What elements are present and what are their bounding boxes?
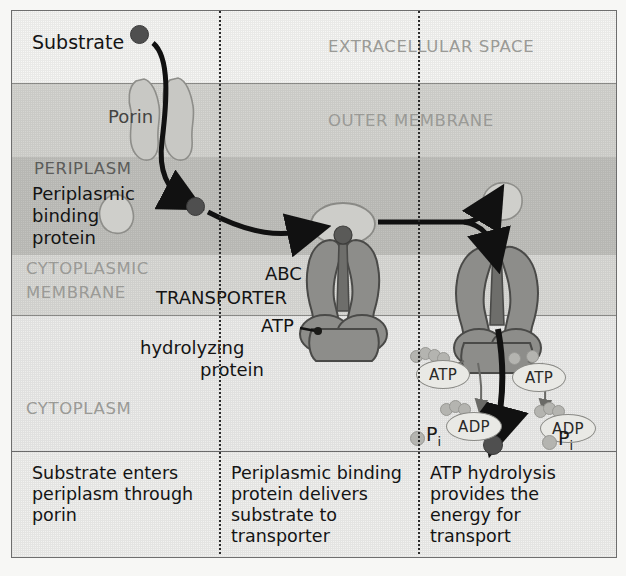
label-periplasmic-binding-protein-line3: protein: [32, 227, 96, 248]
label-cytoplasmic-membrane-line1: CYTOPLASMIC: [26, 259, 149, 278]
label-atp-hydrolyzing-line3: protein: [200, 359, 264, 380]
caption-2-line-2: protein delivers: [231, 484, 409, 505]
arrow-binding-protein-release: [464, 201, 494, 222]
caption-2-line-1: Periplasmic binding: [231, 463, 409, 484]
phosphate-label-right: Pi: [558, 427, 573, 453]
arrow-substrate-to-transporter: [208, 212, 312, 234]
caption-step-2: Periplasmic binding protein delivers sub…: [231, 463, 409, 547]
label-cytoplasm: CYTOPLASM: [26, 399, 131, 418]
caption-3-line-4: transport: [430, 526, 602, 547]
periplasmic-binding-protein-released: [483, 183, 522, 220]
caption-step-1: Substrate enters periplasm through porin: [32, 463, 210, 526]
phosphate-label-left: Pi: [426, 423, 441, 449]
label-atp-hydrolyzing-line2: hydrolyzing: [140, 337, 244, 358]
adp-label-left: ADP: [446, 412, 502, 441]
caption-3-line-1: ATP hydrolysis: [430, 463, 602, 484]
label-cytoplasmic-membrane-line2: MEMBRANE: [26, 283, 126, 302]
label-outer-membrane: OUTER MEMBRANE: [328, 111, 494, 130]
abc-transporter-middle: [300, 203, 387, 361]
substrate-in-transporter: [334, 226, 352, 244]
caption-2-line-3: substrate to: [231, 505, 409, 526]
label-extracellular-space: EXTRACELLULAR SPACE: [328, 37, 534, 56]
substrate-dot-periplasm: [186, 197, 205, 216]
label-periplasm: PERIPLASM: [34, 159, 132, 178]
caption-3-line-3: energy for: [430, 505, 602, 526]
caption-1-line-3: porin: [32, 505, 210, 526]
label-substrate: Substrate: [32, 31, 124, 53]
label-abc-line1: ABC: [265, 263, 302, 284]
label-periplasmic-binding-protein-line2: binding: [32, 205, 99, 226]
label-porin: Porin: [108, 106, 153, 127]
diagram-frame: RESISTANCE OF BACTERIA TO ANTIBIOTICS Th…: [11, 10, 617, 558]
label-atp-hydrolyzing-line1: ATP: [261, 315, 294, 336]
caption-step-3: ATP hydrolysis provides the energy for t…: [430, 463, 602, 547]
label-abc-line2: TRANSPORTER: [156, 287, 287, 308]
caption-2-line-4: transporter: [231, 526, 409, 547]
phosphate-circle: [542, 435, 557, 450]
leader-atp-dot: [314, 327, 322, 335]
phosphate-circle: [508, 352, 521, 365]
panel-separator-2: [418, 11, 420, 554]
atp-label-right: ATP: [512, 363, 566, 392]
panel-separator-1: [219, 11, 221, 554]
phosphate-circle: [526, 350, 539, 363]
diagram-canvas: RESISTANCE OF BACTERIA TO ANTIBIOTICS Th…: [0, 0, 626, 576]
atp-label-left: ATP: [416, 360, 470, 389]
caption-1-line-1: Substrate enters: [32, 463, 210, 484]
caption-3-line-2: provides the: [430, 484, 602, 505]
caption-1-line-2: periplasm through: [32, 484, 210, 505]
substrate-dot-legend: [130, 25, 149, 44]
label-periplasmic-binding-protein-line1: Periplasmic: [32, 183, 135, 204]
